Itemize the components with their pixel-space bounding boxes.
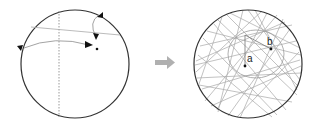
point-b-label: b [267,36,273,47]
diagram-canvas: a b [0,0,321,129]
right-panel: a b [194,10,302,118]
trajectory-curve-left [24,41,89,48]
arrowhead-trajectory-end [85,41,93,48]
chords [195,10,301,118]
point-a [244,65,247,68]
right-arrow-icon [155,56,175,69]
left-panel [17,10,129,118]
point-a-label: a [247,53,253,64]
arrowhead-left-edge [17,45,23,51]
target-point [96,48,99,51]
arrowhead-top-end [93,33,99,40]
caustic-ellipse [228,30,284,78]
left-circle [21,10,129,118]
point-b [270,48,273,51]
chord-line [31,27,120,35]
